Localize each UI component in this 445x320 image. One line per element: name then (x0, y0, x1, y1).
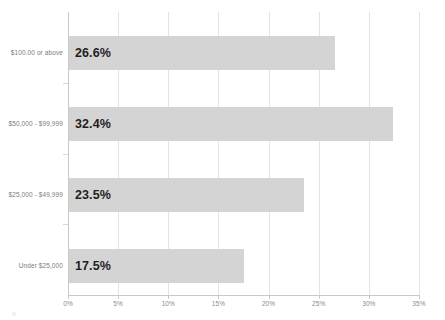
x-tick-label: 10% (162, 300, 175, 307)
x-tick-10pct (168, 295, 169, 299)
y-axis-line (68, 12, 69, 295)
category-label: $50,000 - $99,999 (0, 120, 63, 127)
x-tick-label: 35% (412, 300, 425, 307)
category-label: Under $25,000 (0, 262, 63, 269)
x-tick-label: 25% (312, 300, 325, 307)
x-tick-label: 5% (113, 300, 123, 307)
bar-value-label: 26.6% (68, 36, 111, 70)
x-tick-label: 15% (212, 300, 225, 307)
x-tick-25pct (319, 295, 320, 299)
bar-value-label: 17.5% (68, 249, 111, 283)
scan-artifact (12, 312, 16, 316)
x-tick-20pct (269, 295, 270, 299)
bar[interactable] (68, 107, 393, 141)
y-tick (63, 154, 68, 155)
x-tick-30pct (369, 295, 370, 299)
x-tick-label: 0% (63, 300, 73, 307)
x-tick-label: 20% (262, 300, 275, 307)
gridline-30pct (369, 12, 370, 295)
y-tick (63, 83, 68, 84)
category-label: $100.00 or above (0, 49, 63, 56)
x-tick-0pct (68, 295, 69, 299)
bar-value-label: 32.4% (68, 107, 111, 141)
bar-value-label: 23.5% (68, 178, 111, 212)
x-axis-line (68, 295, 420, 296)
x-tick-label: 30% (362, 300, 375, 307)
bar-chart: 26.6%32.4%23.5%17.5% 0%5%10%15%20%25%30%… (0, 0, 445, 320)
gridline-35pct (419, 12, 420, 295)
category-label: $25,000 - $49,999 (0, 191, 63, 198)
x-tick-15pct (218, 295, 219, 299)
plot-area: 26.6%32.4%23.5%17.5% (68, 12, 419, 295)
y-tick (63, 224, 68, 225)
x-tick-5pct (118, 295, 119, 299)
x-tick-35pct (419, 295, 420, 299)
